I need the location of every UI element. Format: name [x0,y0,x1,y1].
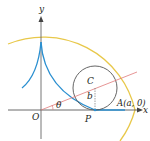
y-axis-label: y [39,5,44,14]
point-a-label: A(a, 0) [117,99,146,108]
radius-label: b [87,92,93,101]
y-axis-arrow-icon [39,16,44,22]
angle-label: θ [56,101,61,110]
point-p-label: P [85,115,91,124]
angle-arc [52,105,53,110]
diagram-canvas [0,0,150,141]
hypocycloid-curve [41,42,125,110]
origin-label: O [32,113,39,122]
center-label: C [87,77,94,86]
point-p [94,109,97,112]
hypocycloid-curve-left [22,42,41,88]
large-circle-arc [8,37,135,141]
